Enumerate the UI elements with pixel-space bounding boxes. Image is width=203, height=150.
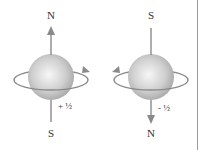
spin-down-electron: S N - ½ — [112, 9, 188, 139]
arrow-up-icon — [47, 26, 55, 35]
south-label: S — [148, 9, 154, 21]
rotation-arrow-icon — [112, 66, 120, 73]
north-label: N — [47, 9, 55, 21]
spin-up-electron: N S + ½ — [14, 9, 90, 139]
south-label: S — [48, 127, 54, 139]
sphere — [28, 54, 74, 100]
sphere — [128, 54, 174, 100]
spin-value-label: - ½ — [158, 103, 170, 113]
spin-value-label: + ½ — [58, 101, 72, 111]
north-label: N — [147, 127, 155, 139]
rotation-arrow-icon — [82, 66, 90, 73]
spin-diagram: N S + ½ S N - ½ — [0, 0, 203, 150]
arrow-down-icon — [147, 115, 155, 124]
